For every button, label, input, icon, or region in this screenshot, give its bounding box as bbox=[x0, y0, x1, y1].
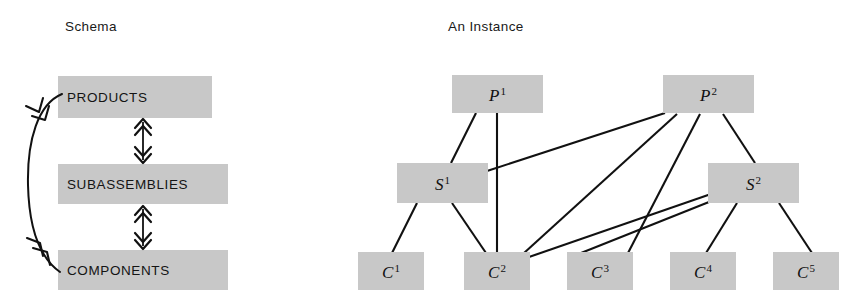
node-c2[interactable]: C2 bbox=[464, 252, 530, 290]
node-c1-letter: C bbox=[382, 264, 393, 281]
edge-s2-c3 bbox=[576, 200, 714, 255]
node-p2[interactable]: P2 bbox=[663, 75, 754, 113]
node-p2-letter: P bbox=[700, 87, 710, 104]
node-p1[interactable]: P1 bbox=[452, 75, 543, 113]
edge-p2-c3 bbox=[628, 114, 700, 253]
node-c4-letter: C bbox=[694, 264, 705, 281]
edge-s2-c4 bbox=[706, 203, 737, 253]
node-s2[interactable]: S2 bbox=[708, 163, 799, 203]
node-c5-letter: C bbox=[797, 264, 808, 281]
edge-s1-c2 bbox=[452, 203, 486, 253]
node-p1-subscript: 1 bbox=[499, 85, 506, 104]
edge-s2-c2 bbox=[529, 194, 711, 257]
node-c3-subscript: 3 bbox=[602, 262, 609, 281]
node-s1-subscript: 1 bbox=[444, 174, 451, 193]
node-c2-subscript: 2 bbox=[499, 262, 506, 281]
edge-p1-s1 bbox=[451, 113, 476, 163]
node-c3-letter: C bbox=[591, 264, 602, 281]
node-p1-letter: P bbox=[489, 87, 499, 104]
node-c2-letter: C bbox=[488, 264, 499, 281]
edge-p2-s2 bbox=[723, 114, 755, 163]
node-c3[interactable]: C3 bbox=[567, 252, 633, 290]
node-c1[interactable]: C1 bbox=[358, 252, 424, 290]
node-c4[interactable]: C4 bbox=[670, 252, 736, 290]
node-c5[interactable]: C5 bbox=[773, 252, 839, 290]
edge-p2-s1 bbox=[487, 113, 665, 171]
node-s1[interactable]: S1 bbox=[397, 163, 488, 203]
node-c1-subscript: 1 bbox=[393, 262, 400, 281]
node-s1-letter: S bbox=[435, 176, 444, 193]
node-p2-subscript: 2 bbox=[710, 85, 717, 104]
node-c4-subscript: 4 bbox=[705, 262, 712, 281]
edge-s1-c1 bbox=[392, 203, 417, 253]
node-s2-subscript: 2 bbox=[755, 174, 762, 193]
node-s2-letter: S bbox=[746, 176, 755, 193]
node-c5-subscript: 5 bbox=[808, 262, 815, 281]
edge-s2-c5 bbox=[779, 203, 812, 253]
